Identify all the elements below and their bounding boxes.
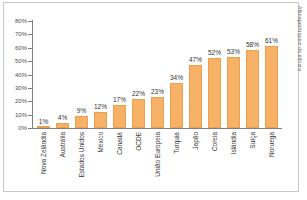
image-credit: Afimape/Arquivo da editora	[294, 6, 303, 136]
x-axis-line	[32, 128, 282, 129]
y-axis-tick	[28, 48, 32, 49]
plot-area: 1%4%9%12%17%22%23%34%47%52%53%58%61%	[32, 21, 280, 128]
bar[interactable]	[56, 123, 69, 128]
bar[interactable]	[170, 83, 183, 128]
y-axis-tick	[28, 75, 32, 76]
bar[interactable]	[189, 65, 202, 128]
bar[interactable]	[151, 97, 164, 128]
x-axis-category-slot: OCDE	[129, 130, 148, 188]
y-axis-tick-label: 20%	[5, 98, 27, 104]
image-credit-text: Afimape/Arquivo da editora	[296, 6, 301, 71]
x-axis-category-slot: Japão	[186, 130, 205, 188]
bar-slot: 58%	[243, 21, 262, 128]
y-axis-tick	[28, 34, 32, 35]
y-axis-tick	[28, 128, 32, 129]
x-axis-category-label: Canadá	[116, 132, 123, 155]
y-axis-tick-labels: 0%10%20%30%40%50%60%70%80%	[4, 3, 27, 189]
x-axis-category-slot: União Europeia	[148, 130, 167, 188]
x-axis-category-slot: Austrália	[53, 130, 72, 188]
x-axis-category-slot: México	[91, 130, 110, 188]
bar-slot: 12%	[91, 21, 110, 128]
y-axis-tick-label: 10%	[5, 112, 27, 118]
x-axis-category-label: União Europeia	[154, 132, 161, 177]
y-axis-tick-label: 50%	[5, 58, 27, 64]
bar-slot: 34%	[167, 21, 186, 128]
x-axis-category-slot: Coreia	[205, 130, 224, 188]
bar-chart: 0%10%20%30%40%50%60%70%80% 1%4%9%12%17%2…	[4, 3, 284, 189]
x-axis-category-slot: Turquia	[167, 130, 186, 188]
x-axis-category-slot: Canadá	[110, 130, 129, 188]
y-axis-tick	[28, 61, 32, 62]
x-axis-category-label: Suíça	[249, 132, 256, 149]
y-axis-tick-label: 80%	[5, 18, 27, 24]
y-axis-tick	[28, 115, 32, 116]
chart-figure: 0%10%20%30%40%50%60%70%80% 1%4%9%12%17%2…	[0, 0, 307, 200]
bar-slot: 47%	[186, 21, 205, 128]
bar-slot: 53%	[224, 21, 243, 128]
y-axis-tick	[28, 21, 32, 22]
x-axis-category-slot: Noruega	[262, 130, 281, 188]
x-axis-category-label: Coreia	[211, 132, 218, 151]
bar-slot: 1%	[34, 21, 53, 128]
x-axis-category-label: Noruega	[268, 132, 275, 157]
bar-value-label: 61%	[259, 38, 284, 45]
bar-slot: 22%	[129, 21, 148, 128]
x-axis-category-slot: Nova Zelândia	[34, 130, 53, 188]
y-axis-tick-label: 60%	[5, 45, 27, 51]
x-axis-category-label: México	[97, 132, 104, 153]
bar-slot: 52%	[205, 21, 224, 128]
x-axis-category-label: Nova Zelândia	[40, 132, 47, 174]
y-axis-tick-label: 0%	[5, 125, 27, 131]
bar[interactable]	[132, 99, 145, 128]
y-axis-tick	[28, 88, 32, 89]
bar-slot: 9%	[72, 21, 91, 128]
bar[interactable]	[94, 112, 107, 128]
x-axis-category-label: Austrália	[59, 132, 66, 157]
x-axis-category-slot: Suíça	[243, 130, 262, 188]
bar[interactable]	[113, 105, 126, 128]
y-axis-tick-label: 30%	[5, 85, 27, 91]
y-axis-tick-label: 40%	[5, 72, 27, 78]
bar[interactable]	[208, 58, 221, 128]
x-axis-category-label: Islândia	[230, 132, 237, 154]
x-axis-category-label: Turquia	[173, 132, 180, 154]
figure-caption	[0, 193, 307, 200]
y-axis-tick-label: 70%	[5, 31, 27, 37]
bar[interactable]	[265, 46, 278, 128]
x-axis-category-label: Japão	[192, 132, 199, 150]
bar[interactable]	[37, 126, 50, 128]
bar[interactable]	[227, 57, 240, 128]
x-axis-category-slot: Islândia	[224, 130, 243, 188]
y-axis-tick	[28, 101, 32, 102]
x-axis-category-label: Estados Unidos	[78, 132, 85, 178]
bar[interactable]	[75, 116, 88, 128]
bar-slot: 17%	[110, 21, 129, 128]
x-axis-category-label: OCDE	[135, 132, 142, 151]
x-axis-category-slot: Estados Unidos	[72, 130, 91, 188]
bar[interactable]	[246, 50, 259, 128]
bar-slot: 61%	[262, 21, 281, 128]
